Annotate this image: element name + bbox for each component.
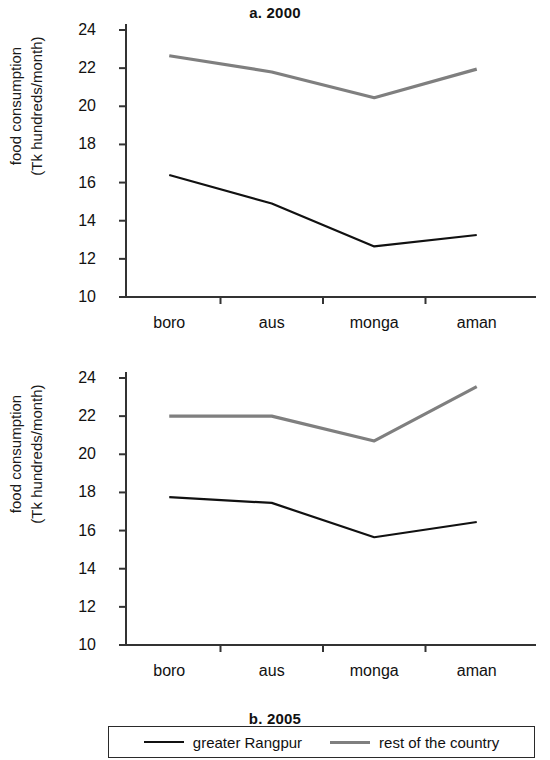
chart-canvas: [104, 370, 536, 654]
chart-legend: greater Rangpur rest of the country: [108, 726, 535, 758]
chart-panel-2005: b. 2005 food consumption (Tk hundreds/mo…: [0, 348, 550, 693]
plot-area-2000: 1012141618202224boroausmongaaman: [104, 22, 536, 306]
legend-entry-rest-of-country: rest of the country: [330, 734, 499, 751]
y-tick-label: 20: [78, 445, 96, 463]
y-tick-label: 16: [78, 174, 96, 192]
y-tick-label: 14: [78, 212, 96, 230]
x-tick-label: boro: [153, 314, 185, 332]
x-tick-label: monga: [350, 662, 399, 680]
series-line: [169, 387, 477, 441]
y-axis-label-line1: food consumption: [5, 0, 26, 221]
y-tick-label: 22: [78, 59, 96, 77]
y-axis-label-b: food consumption (Tk hundreds/month): [5, 339, 49, 569]
y-tick-label: 12: [78, 598, 96, 616]
plot-area-2005: 1012141618202224boroausmongaaman: [104, 370, 536, 654]
series-line: [169, 175, 477, 247]
x-tick-label: boro: [153, 662, 185, 680]
figure-food-consumption: a. 2000 food consumption (Tk hundreds/mo…: [0, 0, 550, 760]
y-tick-label: 22: [78, 407, 96, 425]
chart-panel-2000: a. 2000 food consumption (Tk hundreds/mo…: [0, 0, 550, 345]
series-line: [169, 497, 477, 537]
legend-label-rest-of-country: rest of the country: [379, 734, 499, 751]
y-axis-label-a: food consumption (Tk hundreds/month): [5, 0, 49, 221]
x-tick-label: aman: [457, 662, 497, 680]
legend-line-gray-icon: [330, 741, 370, 744]
legend-line-black-icon: [144, 741, 184, 743]
y-tick-label: 10: [78, 288, 96, 306]
series-line: [169, 56, 477, 98]
y-tick-label: 12: [78, 250, 96, 268]
chart-canvas: [104, 22, 536, 306]
panel-title-a: a. 2000: [0, 4, 550, 21]
x-tick-label: aus: [259, 662, 285, 680]
y-tick-label: 24: [78, 21, 96, 39]
y-tick-label: 18: [78, 483, 96, 501]
y-axis-label-line1: food consumption: [5, 339, 26, 569]
y-tick-label: 10: [78, 636, 96, 654]
x-tick-label: aman: [457, 314, 497, 332]
y-axis-label-line2: (Tk hundreds/month): [26, 0, 47, 221]
x-tick-label: aus: [259, 314, 285, 332]
y-tick-label: 16: [78, 522, 96, 540]
y-tick-label: 18: [78, 135, 96, 153]
legend-label-greater-rangpur: greater Rangpur: [193, 734, 302, 751]
y-tick-label: 24: [78, 369, 96, 387]
panel-title-b: b. 2005: [0, 710, 550, 727]
y-axis-label-line2: (Tk hundreds/month): [26, 339, 47, 569]
y-tick-label: 14: [78, 560, 96, 578]
x-tick-label: monga: [350, 314, 399, 332]
legend-entry-greater-rangpur: greater Rangpur: [144, 734, 302, 751]
y-tick-label: 20: [78, 97, 96, 115]
